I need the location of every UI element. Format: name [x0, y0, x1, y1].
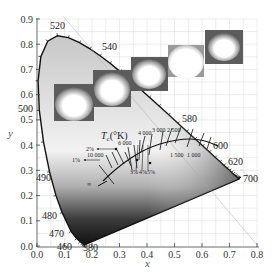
- planck-point-3000: [149, 162, 152, 165]
- temp-label-6000: 6 000: [118, 140, 132, 146]
- x-axis-title: x: [144, 257, 150, 269]
- inset-image-1: [54, 84, 94, 121]
- temp-label-10000: 10 000: [87, 152, 104, 158]
- planck-point-2500: [136, 159, 139, 162]
- x-tick-label: 0.3: [113, 249, 126, 260]
- wl-label-490: 490: [36, 172, 51, 183]
- y-tick-label: 0.4: [21, 140, 34, 151]
- wl-label-460: 460: [57, 241, 72, 252]
- temp-label-1000: 1 000: [187, 152, 201, 158]
- pct-label-3: 3%: [130, 169, 138, 175]
- wl-label-520: 520: [50, 20, 65, 31]
- x-tick-label: 0.5: [168, 249, 181, 260]
- wl-label-470: 470: [49, 228, 64, 239]
- wl-label-620: 620: [228, 156, 243, 167]
- wl-label-700: 700: [243, 173, 258, 184]
- wl-label-580: 580: [182, 113, 197, 124]
- wl-label-500: 500: [18, 103, 33, 114]
- y-tick-label: 0.9: [21, 14, 34, 25]
- planck-point-6000: [115, 148, 118, 151]
- temp-label-3000: 3 000: [152, 127, 166, 133]
- inset-image-5: [205, 30, 243, 64]
- temp-label-2500: 2 500: [167, 127, 181, 133]
- x-tick-label: 0.8: [251, 249, 264, 260]
- temp-label-infinity: ∞: [87, 181, 91, 187]
- wl-label-480: 480: [42, 210, 57, 221]
- pct-label-5: 5%: [147, 169, 155, 175]
- pct-label-1: 1%: [72, 157, 80, 163]
- y-tick-label: 0.2: [21, 190, 34, 201]
- chromaticity-chart: 0.00.10.20.30.40.50.60.70.8 0.00.10.20.3…: [0, 0, 277, 280]
- temp-label-1500: 1 500: [170, 152, 184, 158]
- inset-image-2: [93, 70, 131, 107]
- x-tick-label: 0.7: [223, 249, 236, 260]
- y-tick-label: 0.6: [21, 89, 34, 100]
- y-tick-label: 0.3: [21, 165, 34, 176]
- wl-label-380: 380: [83, 242, 98, 253]
- y-tick-label: 0.8: [21, 39, 34, 50]
- inset-image-4: [168, 45, 204, 79]
- y-tick-label: 0.1: [21, 215, 34, 226]
- pct-label-2: 2%: [86, 146, 94, 152]
- x-tick-label: 0.6: [196, 249, 209, 260]
- y-tick-label: 0.5: [21, 114, 34, 125]
- y-tick-label: 0.0: [21, 241, 34, 252]
- y-tick-label: 0.7: [21, 64, 34, 75]
- inset-image-3: [131, 57, 168, 91]
- temp-label-4000: 4 000: [138, 130, 152, 136]
- wl-label-540: 540: [102, 41, 117, 52]
- wl-label-600: 600: [213, 140, 228, 151]
- pct-label-4: 4%: [139, 169, 147, 175]
- y-axis-title: y: [7, 127, 13, 139]
